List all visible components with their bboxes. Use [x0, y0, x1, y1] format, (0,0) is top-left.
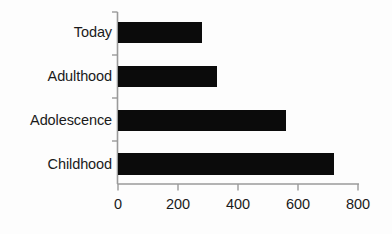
bar-today: [118, 22, 202, 43]
y-tick-label: Adulthood: [4, 68, 112, 84]
bar-adolescence: [118, 110, 286, 131]
x-tick-label-0: 0: [114, 196, 122, 212]
x-tick-label-200: 200: [166, 196, 190, 212]
y-tick-label: Today: [4, 24, 112, 40]
y-tick-label: Childhood: [4, 156, 112, 172]
bar-chart: Today Adulthood Adolescence Childhood 0 …: [0, 0, 392, 234]
bar-adulthood: [118, 66, 217, 87]
x-tick-label-600: 600: [286, 196, 310, 212]
bar-childhood: [118, 153, 334, 175]
x-tick-label-400: 400: [226, 196, 250, 212]
x-tick-label-800: 800: [346, 196, 370, 212]
y-tick-label: Adolescence: [4, 112, 112, 128]
